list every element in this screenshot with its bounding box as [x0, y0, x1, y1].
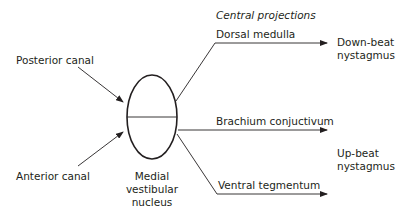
down-beat-line1: Down-beat: [337, 36, 395, 49]
posterior-canal-label: Posterior canal: [16, 54, 94, 67]
nucleus-label: Medial vestibular nucleus: [122, 170, 182, 209]
anterior-canal-arrow: [78, 132, 123, 166]
dorsal-medulla-label: Dorsal medulla: [216, 28, 295, 41]
nucleus-label-line1: Medial: [122, 170, 182, 183]
down-beat-nystagmus-label: Down-beat nystagmus: [337, 36, 395, 62]
nucleus-label-line3: nucleus: [122, 196, 182, 209]
up-beat-line2: nystagmus: [337, 160, 395, 173]
up-beat-nystagmus-label: Up-beat nystagmus: [337, 147, 395, 173]
ventral-tegmentum-label: Ventral tegmentum: [218, 179, 320, 192]
central-projections-heading: Central projections: [216, 9, 316, 22]
brachium-conjuctivum-label: Brachium conjuctivum: [216, 115, 334, 128]
dorsal-medulla-pathway-arrow: [176, 43, 327, 101]
down-beat-line2: nystagmus: [337, 49, 395, 62]
up-beat-line1: Up-beat: [337, 147, 395, 160]
nucleus-label-line2: vestibular: [122, 183, 182, 196]
anterior-canal-label: Anterior canal: [16, 170, 90, 183]
posterior-canal-arrow: [78, 67, 123, 102]
